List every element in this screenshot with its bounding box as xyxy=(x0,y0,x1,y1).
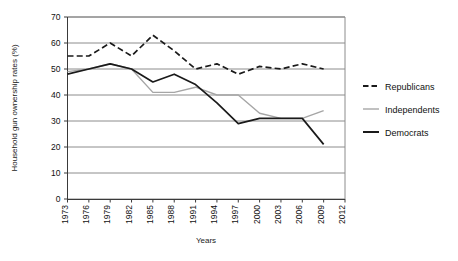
x-tick-label: 1985 xyxy=(145,205,155,224)
x-tick-label: 1994 xyxy=(209,205,219,224)
gun-ownership-line-chart: 010203040506070 197319761979198219851988… xyxy=(0,0,458,261)
x-tick-label: 1988 xyxy=(166,205,176,224)
x-tick-label: 2006 xyxy=(294,205,304,224)
y-tick-label: 20 xyxy=(51,142,61,152)
legend-label-independents: Independents xyxy=(385,105,440,115)
y-tick-label: 50 xyxy=(51,64,61,74)
x-tick-label: 1973 xyxy=(60,205,70,224)
y-tick-label: 10 xyxy=(51,168,61,178)
y-tick-label: 40 xyxy=(51,90,61,100)
legend-label-democrats: Democrats xyxy=(385,128,429,138)
x-tick-label: 1979 xyxy=(102,205,112,224)
y-tick-label: 30 xyxy=(51,116,61,126)
x-tick-label: 2009 xyxy=(316,205,326,224)
x-tick-label: 2003 xyxy=(273,205,283,224)
y-tick-label: 60 xyxy=(51,38,61,48)
y-axis-title: Household gun ownership rates (%) xyxy=(10,44,19,172)
x-tick-label: 1982 xyxy=(124,205,134,224)
x-tick-label: 2000 xyxy=(252,205,262,224)
y-tick-label: 70 xyxy=(51,12,61,22)
legend-label-republicans: Republicans xyxy=(385,82,435,92)
y-tick-label: 0 xyxy=(56,194,61,204)
x-axis-title: Years xyxy=(196,236,216,245)
x-tick-label: 1976 xyxy=(81,205,91,224)
x-tick-label: 1997 xyxy=(230,205,240,224)
x-tick-label: 2012 xyxy=(337,205,347,224)
x-tick-label: 1991 xyxy=(188,205,198,224)
